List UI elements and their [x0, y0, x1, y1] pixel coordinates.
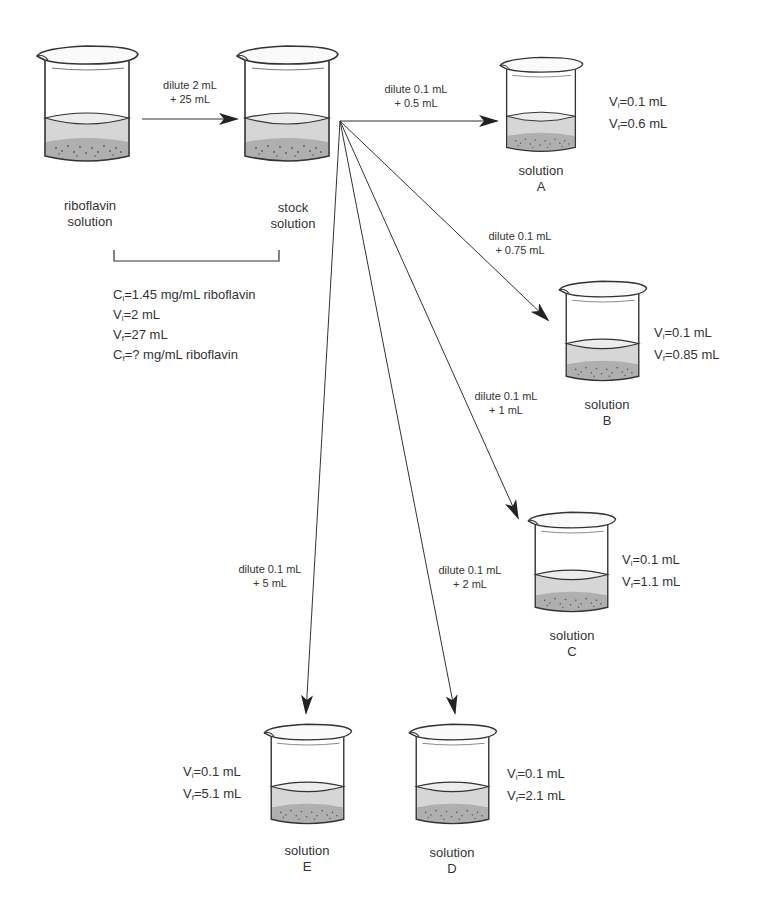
solution-c-label: solutionC [537, 628, 607, 660]
riboflavin-label-line2: solution [45, 214, 135, 230]
stock-label: stock solution [248, 200, 338, 232]
beaker-d [409, 724, 496, 823]
dilution-c-label: dilute 0.1 mL+ 1 mL [456, 389, 556, 417]
solution-b-volumes: Vi=0.1 mL Vf=0.85 mL [654, 324, 719, 368]
given-vf: Vf=27 mL [113, 327, 256, 347]
solution-a-volumes: Vi=0.1 mL Vf=0.6 mL [609, 93, 667, 137]
riboflavin-label-line1: riboflavin [45, 198, 135, 214]
dilution-a-label: dilute 0.1 mL+ 0.5 mL [366, 82, 466, 110]
given-ci: Ci=1.45 mg/mL riboflavin [113, 287, 256, 307]
stock-beaker [237, 46, 338, 161]
solution-b-label: solutionB [572, 397, 642, 429]
dilution-d-label: dilute 0.1 mL+ 2 mL [420, 563, 520, 591]
riboflavin-beaker [37, 46, 138, 161]
bracket [114, 250, 279, 261]
solution-d-label: solutionD [417, 845, 487, 877]
arrow-to-b [340, 121, 548, 320]
first-dilution-label: dilute 2 mL + 25 mL [145, 78, 235, 106]
stock-label-line1: stock [248, 200, 338, 216]
solution-e-label: solutionE [272, 843, 342, 875]
beaker-c [528, 512, 615, 611]
stock-label-line2: solution [248, 216, 338, 232]
dilution-e-label: dilute 0.1 mL+ 5 mL [220, 562, 320, 590]
solution-d-volumes: Vi=0.1 mL Vf=2.1 mL [507, 765, 565, 809]
first-dilution-line1: dilute 2 mL [145, 78, 235, 92]
given-cf: Cf=? mg/mL riboflavin [113, 347, 256, 367]
arrow-to-c [340, 121, 518, 518]
solution-a-label: solutionA [506, 163, 576, 195]
given-vi: Vi=2 mL [113, 307, 256, 327]
solution-c-volumes: Vi=0.1 mL Vf=1.1 mL [622, 551, 680, 595]
solution-e-volumes: Vi=0.1 mL Vf=5.1 mL [183, 763, 241, 807]
dilution-b-label: dilute 0.1 mL+ 0.75 mL [470, 229, 570, 257]
riboflavin-label: riboflavin solution [45, 198, 135, 230]
beaker-a [500, 57, 583, 151]
first-dilution-line2: + 25 mL [145, 92, 235, 106]
beaker-b [559, 281, 646, 380]
given-values: Ci=1.45 mg/mL riboflavin Vi=2 mL Vf=27 m… [113, 287, 256, 367]
arrow-to-d [340, 121, 455, 713]
beaker-e [264, 724, 351, 823]
